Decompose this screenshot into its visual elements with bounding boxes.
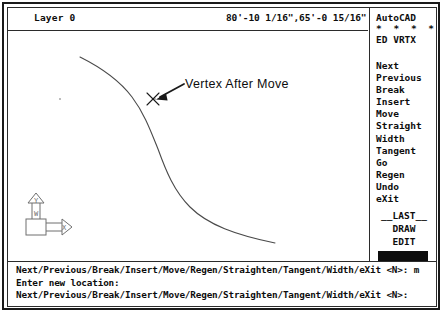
- side-menu-footer: __LAST__ DRAW EDIT: [370, 209, 438, 262]
- menu-item-go[interactable]: Go: [376, 157, 438, 169]
- ucs-y-label: Y: [34, 197, 39, 205]
- ucs-icon: Y X W: [26, 193, 72, 235]
- menu-item-tangent[interactable]: Tangent: [376, 145, 438, 157]
- menu-item-width[interactable]: Width: [376, 133, 438, 145]
- menu-item-straight[interactable]: Straight: [376, 120, 438, 132]
- menu-item-undo[interactable]: Undo: [376, 181, 438, 193]
- drawing-dot: [59, 98, 61, 100]
- command-line-2: Enter new location:: [16, 277, 436, 290]
- drawing-dot: [154, 98, 156, 100]
- command-area-divider: [8, 261, 437, 262]
- side-menu-items: Next Previous Break Insert Move Straight…: [376, 60, 438, 205]
- side-screen-menu[interactable]: AutoCAD * * * * ED VRTX Next Previous Br…: [369, 8, 437, 261]
- current-layer-label[interactable]: Layer 0: [34, 12, 75, 23]
- command-line-1: Next/Previous/Break/Insert/Move/Regen/St…: [16, 264, 436, 277]
- autocad-screen: Layer 0 80'-10 1/16",65'-0 15/16": [0, 0, 446, 316]
- ucs-world-label: W: [34, 210, 39, 218]
- menu-item-exit[interactable]: eXit: [376, 193, 438, 205]
- drawing-vector-layer: Y X W: [8, 31, 368, 261]
- coordinate-readout[interactable]: 80'-10 1/16",65'-0 15/16": [226, 12, 367, 23]
- menu-item-break[interactable]: Break: [376, 84, 438, 96]
- ucs-x-label: X: [62, 224, 67, 232]
- menu-item-edit[interactable]: EDIT: [376, 235, 432, 248]
- drawing-canvas[interactable]: Y X W: [8, 31, 368, 261]
- menu-item-last[interactable]: __LAST__: [376, 209, 432, 222]
- side-menu-title: AutoCAD: [376, 12, 416, 23]
- menu-item-move[interactable]: Move: [376, 108, 438, 120]
- vertex-annotation-label: Vertex After Move: [185, 77, 289, 91]
- menu-item-insert[interactable]: Insert: [376, 96, 438, 108]
- side-menu-mode-label: ED VRTX: [376, 34, 416, 45]
- menu-item-regen[interactable]: Regen: [376, 169, 438, 181]
- status-bar: Layer 0 80'-10 1/16",65'-0 15/16": [8, 8, 368, 30]
- command-line-3[interactable]: Next/Previous/Break/Insert/Move/Regen/St…: [16, 289, 436, 302]
- menu-item-previous[interactable]: Previous: [376, 72, 438, 84]
- menu-item-draw[interactable]: DRAW: [376, 222, 432, 235]
- menu-item-next[interactable]: Next: [376, 60, 438, 72]
- leader-arrow: [156, 84, 184, 101]
- command-area[interactable]: Next/Previous/Break/Insert/Move/Regen/St…: [16, 264, 436, 302]
- side-menu-separator-dots: * * * *: [376, 24, 437, 34]
